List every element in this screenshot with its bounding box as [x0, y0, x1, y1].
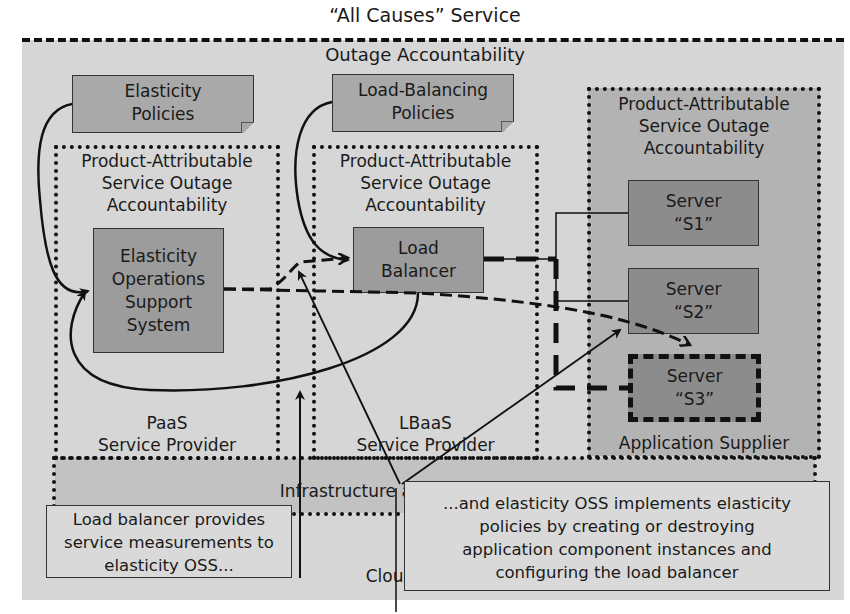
paas-zone-footer: PaaS Service Provider [56, 412, 278, 456]
all-causes-boundary [22, 38, 844, 42]
server-s2[interactable]: Server “S2” [628, 268, 759, 334]
app-zone-footer: Application Supplier [590, 432, 818, 454]
server-s3-line-2: “S3” [675, 388, 714, 411]
server-s3[interactable]: Server “S3” [628, 354, 761, 422]
eoss-line-1: Elasticity [120, 245, 197, 268]
right-caption: ...and elasticity OSS implements elastic… [404, 481, 830, 591]
app-header-line-1: Product-Attributable [590, 93, 818, 115]
paas-header-line-3: Accountability [56, 194, 278, 216]
paas-zone-header: Product-Attributable Service Outage Acco… [56, 150, 278, 216]
load-balancing-policies-note[interactable]: Load-Balancing Policies [332, 74, 514, 132]
load-balancer-line-1: Load [398, 237, 439, 260]
app-zone-header: Product-Attributable Service Outage Acco… [590, 93, 818, 159]
elasticity-oss-box[interactable]: Elasticity Operations Support System [93, 228, 224, 353]
load-balancer-box[interactable]: Load Balancer [353, 227, 484, 293]
lbaas-zone-header: Product-Attributable Service Outage Acco… [314, 150, 537, 216]
right-caption-line-2: policies by creating or destroying [405, 515, 829, 538]
app-header-line-2: Service Outage [590, 115, 818, 137]
server-s1[interactable]: Server “S1” [628, 180, 759, 246]
right-caption-line-3: application component instances and [405, 538, 829, 561]
server-s2-line-2: “S2” [674, 301, 713, 324]
server-s1-line-1: Server [666, 190, 722, 213]
lbaas-zone-footer: LBaaS Service Provider [314, 412, 537, 456]
app-header-line-3: Accountability [590, 137, 818, 159]
left-caption-line-3: elasticity OSS... [47, 554, 291, 577]
lbaas-footer-line-2: Service Provider [314, 434, 537, 456]
paas-header-line-2: Service Outage [56, 172, 278, 194]
left-caption-line-1: Load balancer provides [47, 508, 291, 531]
eoss-line-3: Support [125, 291, 192, 314]
lb-policies-line-2: Policies [333, 102, 513, 125]
left-caption-line-2: service measurements to [47, 531, 291, 554]
right-caption-line-4: configuring the load balancer [405, 561, 829, 584]
server-s3-line-1: Server [667, 365, 723, 388]
outage-accountability-label: Outage Accountability [0, 44, 850, 65]
paas-footer-line-2: Service Provider [56, 434, 278, 456]
elasticity-policies-line-1: Elasticity [73, 80, 253, 103]
lbaas-footer-line-1: LBaaS [314, 412, 537, 434]
load-balancer-line-2: Balancer [381, 260, 456, 283]
eoss-line-2: Operations [112, 268, 205, 291]
server-s1-line-2: “S1” [674, 213, 713, 236]
elasticity-policies-line-2: Policies [73, 103, 253, 126]
lbaas-header-line-1: Product-Attributable [314, 150, 537, 172]
server-s2-line-1: Server [666, 278, 722, 301]
lbaas-header-line-3: Accountability [314, 194, 537, 216]
lbaas-header-line-2: Service Outage [314, 172, 537, 194]
paas-footer-line-1: PaaS [56, 412, 278, 434]
elasticity-policies-note[interactable]: Elasticity Policies [72, 75, 254, 133]
right-caption-line-1: ...and elasticity OSS implements elastic… [405, 492, 829, 515]
diagram-title: “All Causes” Service [0, 4, 850, 26]
lb-policies-line-1: Load-Balancing [333, 79, 513, 102]
left-caption: Load balancer provides service measureme… [46, 505, 292, 578]
eoss-line-4: System [127, 314, 190, 337]
paas-header-line-1: Product-Attributable [56, 150, 278, 172]
